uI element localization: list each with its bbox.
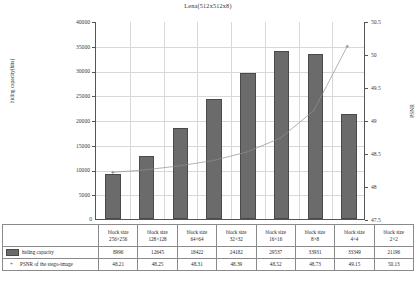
y-axis-right-tick-label: 48 — [371, 184, 415, 190]
psnr-plus-marker — [111, 171, 114, 174]
table-cell-hiding-capacity: 18422 — [177, 247, 216, 259]
y-axis-right-tick-label: 48.5 — [371, 151, 415, 157]
table-cell-psnr: 48.39 — [217, 259, 256, 271]
chart-title: Lena(512x512x8) — [0, 2, 416, 9]
table-cell-psnr: 49.15 — [335, 259, 374, 271]
table-cell-category: block size16×16 — [256, 225, 295, 247]
legend-hiding-capacity: hiding capacity — [3, 247, 99, 259]
category-label-line1: block size — [108, 229, 129, 235]
y-axis-right-tick-label: 49.5 — [371, 85, 415, 91]
table-cell-category: block size4×4 — [335, 225, 374, 247]
plot-area — [95, 22, 365, 220]
psnr-plus-marker — [245, 150, 248, 153]
category-label-line2: 32×32 — [217, 236, 255, 243]
legend-label-hiding-capacity: hiding capacity — [22, 250, 54, 255]
category-label-line2: 128×128 — [138, 236, 176, 243]
table-cell-psnr: 48.73 — [295, 259, 334, 271]
y-axis-right-tick-mark — [365, 121, 368, 122]
table-cell-psnr: 48.31 — [177, 259, 216, 271]
table-cell-hiding-capacity: 33349 — [335, 247, 374, 259]
table-cell-hiding-capacity: 33931 — [295, 247, 334, 259]
psnr-plus-marker — [178, 164, 181, 167]
category-label-line1: block size — [187, 229, 208, 235]
table-cell-hiding-capacity: 12645 — [138, 247, 177, 259]
table-cell-hiding-capacity: 21196 — [374, 247, 413, 259]
y-axis-left-title: hiding capacity(bits) — [9, 36, 15, 126]
category-label-line1: block size — [147, 229, 168, 235]
y-axis-left-tick-label: 20000 — [35, 118, 90, 124]
y-axis-right-tick-mark — [365, 154, 368, 155]
category-label-line2: 8×8 — [296, 236, 334, 243]
table-row-psnr: + PSNR of the stego-image 48.2148.2548.3… — [3, 259, 414, 271]
table-corner-cell — [3, 225, 99, 247]
y-axis-right-tick-mark — [365, 88, 368, 89]
category-label-line1: block size — [384, 229, 405, 235]
data-table: block size256×256block size128×128block … — [2, 224, 414, 271]
legend-psnr: + PSNR of the stego-image — [3, 259, 99, 271]
y-axis-right-tick-mark — [365, 187, 368, 188]
category-label-line1: block size — [226, 229, 247, 235]
category-label-line2: 256×256 — [99, 236, 137, 243]
line-series-psnr — [96, 22, 364, 219]
y-axis-left-tick-label: 40000 — [35, 19, 90, 25]
table-cell-psnr: 48.25 — [138, 259, 177, 271]
y-axis-left-tick-label: 30000 — [35, 68, 90, 74]
y-axis-right-tick-label: 50.5 — [371, 19, 415, 25]
psnr-plus-marker — [212, 159, 215, 162]
table-cell-psnr: 48.21 — [99, 259, 138, 271]
y-axis-left-tick-label: 35000 — [35, 44, 90, 50]
psnr-line-path — [113, 46, 348, 172]
plus-marker-icon: + — [6, 262, 17, 267]
y-axis-left-tick-label: 5000 — [35, 192, 90, 198]
category-label-line2: 4×4 — [335, 236, 373, 243]
y-axis-left-tick-label: 10000 — [35, 167, 90, 173]
table-cell-hiding-capacity: 29537 — [256, 247, 295, 259]
y-axis-zero-label: 0 — [76, 216, 92, 222]
bar-swatch-icon — [6, 249, 19, 256]
y-axis-right-tick-mark — [365, 220, 368, 221]
category-label-line2: 64×64 — [178, 236, 216, 243]
y-axis-right-tick-label: 49 — [371, 118, 415, 124]
table-cell-psnr: 48.52 — [256, 259, 295, 271]
table-row-categories: block size256×256block size128×128block … — [3, 225, 414, 247]
y-axis-right-tick-mark — [365, 22, 368, 23]
chart-container: Lena(512x512x8) hiding capacity(bits) PS… — [0, 0, 416, 283]
category-label-line1: block size — [305, 229, 326, 235]
table-cell-hiding-capacity: 24182 — [217, 247, 256, 259]
table-cell-category: block size2×2 — [374, 225, 413, 247]
y-axis-right-tick-mark — [365, 55, 368, 56]
table-cell-psnr: 50.13 — [374, 259, 413, 271]
y-axis-right-title: PSNR — [409, 91, 415, 131]
table-cell-category: block size64×64 — [177, 225, 216, 247]
y-axis-right-tick-label: 47.5 — [371, 217, 415, 223]
category-label-line1: block size — [344, 229, 365, 235]
category-label-line2: 16×16 — [257, 236, 295, 243]
category-label-line1: block size — [265, 229, 286, 235]
table-cell-category: block size256×256 — [99, 225, 138, 247]
table-row-hiding-capacity: hiding capacity 899612645184222418229537… — [3, 247, 414, 259]
y-axis-right-tick-label: 50 — [371, 52, 415, 58]
y-axis-left-tick-label: 15000 — [35, 143, 90, 149]
category-label-line2: 2×2 — [375, 236, 413, 243]
table-cell-category: block size8×8 — [295, 225, 334, 247]
y-axis-left-tick-label: 25000 — [35, 93, 90, 99]
table-cell-hiding-capacity: 8996 — [99, 247, 138, 259]
legend-label-psnr: PSNR of the stego-image — [20, 262, 73, 267]
table-cell-category: block size32×32 — [217, 225, 256, 247]
psnr-plus-marker — [145, 168, 148, 171]
psnr-plus-marker — [346, 45, 349, 48]
table-cell-category: block size128×128 — [138, 225, 177, 247]
